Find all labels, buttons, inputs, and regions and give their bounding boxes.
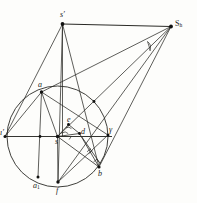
central-triangle-construction	[58, 125, 101, 168]
point-dot-arc-right	[93, 100, 96, 103]
label-b: b	[98, 170, 102, 178]
point-dot-a1	[37, 176, 40, 179]
point-dot-s-prime	[61, 22, 65, 26]
segment-s-prime-to-b	[63, 24, 100, 167]
segment-s-prime-to-l-prime	[5, 24, 63, 137]
segment-a-to-gamma	[42, 92, 109, 135]
point-dot-f	[56, 180, 59, 183]
segment-s-prime-to-Sh	[63, 24, 172, 27]
geometric-figure-canvas: s′ Sh a ı′ γ s e d b f a1	[0, 0, 197, 203]
segment-a-to-center	[42, 92, 58, 137]
label-e: e	[67, 116, 71, 124]
segment-e-to-d	[69, 125, 80, 134]
segment-l-prime-to-a	[5, 92, 42, 137]
segment-Sh-to-center	[58, 27, 172, 137]
label-f: f	[56, 187, 58, 195]
segment-Sh-to-f	[58, 27, 171, 183]
point-dot-Sh	[169, 25, 173, 29]
segment-center-to-b	[58, 137, 100, 168]
lines-from-s-prime	[5, 24, 171, 182]
point-dot-left-chord-foot	[39, 135, 42, 138]
segment-a-to-a1	[38, 92, 42, 177]
label-S-h: Sh	[175, 20, 182, 28]
label-center-s: s	[55, 138, 58, 146]
label-a-one: a1	[33, 182, 40, 190]
label-d: d	[81, 128, 85, 136]
point-dot-a	[40, 90, 43, 93]
label-a: a	[38, 81, 42, 89]
label-s-prime: s′	[60, 11, 65, 19]
segment-Sh-to-a	[42, 27, 172, 93]
label-gamma: γ	[109, 126, 112, 134]
label-l-prime: ı′	[0, 129, 4, 137]
segment-Sh-to-b	[99, 27, 171, 168]
